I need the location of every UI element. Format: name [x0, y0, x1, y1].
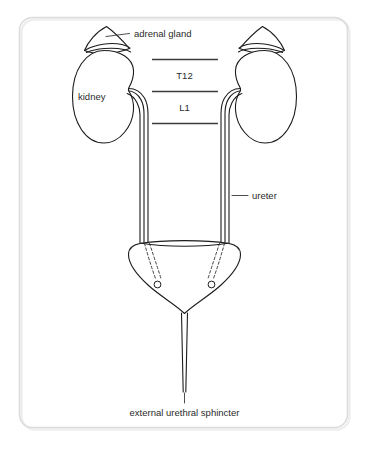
- external-urethral-sphincter-callout: external urethral sphincter: [130, 393, 240, 418]
- adrenal-gland-left: [85, 27, 131, 54]
- kidney-right-outline: [235, 51, 296, 144]
- vertebral-level-markers: T12 L1: [152, 60, 218, 124]
- urinary-tract-diagram: T12 L1 adrenal gland: [0, 0, 369, 453]
- adrenal-gland-right: [239, 27, 285, 54]
- diagram-canvas: T12 L1 adrenal gland: [0, 0, 369, 453]
- ureteric-orifice-left: [154, 281, 161, 288]
- figure-frame-shadow: [22, 20, 350, 430]
- vertebra-label-l1: L1: [179, 102, 190, 113]
- urinary-bladder: [129, 241, 241, 314]
- adrenal-gland-label: adrenal gland: [134, 28, 192, 39]
- ureter-callout: ureter: [232, 190, 277, 201]
- kidney-label: kidney: [78, 91, 106, 102]
- kidney-right: [235, 51, 296, 144]
- urinary-bladder-outline: [129, 241, 241, 314]
- vertebra-label-t12: T12: [176, 70, 192, 81]
- ureter-label: ureter: [252, 190, 277, 201]
- ureteric-orifice-right: [208, 281, 215, 288]
- urethra: [182, 313, 188, 392]
- urethra-left-wall: [182, 313, 184, 392]
- external-urethral-sphincter-label: external urethral sphincter: [130, 407, 240, 418]
- urethra-right-wall: [186, 313, 188, 392]
